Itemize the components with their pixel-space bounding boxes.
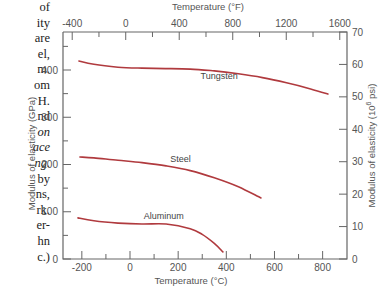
y2-tick-label: 30 — [352, 156, 364, 167]
x-tick-label: 200 — [170, 262, 187, 273]
x2-tick-label: 1600 — [329, 18, 352, 29]
x2-tick-label: -400 — [62, 18, 82, 29]
x-tick-label: -200 — [72, 262, 92, 273]
y2-tick-label: 60 — [352, 59, 364, 70]
x2-tick-label: 400 — [171, 18, 188, 29]
y-tick-label: 200 — [41, 159, 58, 170]
elastic-modulus-chart: -2000200400600800Temperature (°C)-400040… — [0, 0, 379, 286]
x2-tick-label: 0 — [123, 18, 129, 29]
y2-tick-label: 70 — [352, 27, 364, 38]
x-axis-title: Temperature (°C) — [155, 275, 228, 286]
series-label-tungsten: Tungsten — [200, 71, 237, 81]
x2-axis-title: Temperature (°F) — [172, 1, 244, 12]
y-tick-label: 400 — [41, 65, 58, 76]
y-tick-label: 0 — [52, 254, 58, 265]
y-tick-label: 300 — [41, 112, 58, 123]
y-tick-label: 100 — [41, 206, 58, 217]
curve-aluminum — [78, 218, 223, 252]
x2-tick-label: 1200 — [275, 18, 298, 29]
y2-tick-label: 40 — [352, 124, 364, 135]
y2-tick-label: 20 — [352, 189, 364, 200]
series-label-aluminum: Aluminum — [144, 211, 184, 221]
x-tick-label: 0 — [127, 262, 133, 273]
y2-axis-title: Modulus of elasticity (106 psi) — [365, 84, 377, 208]
x2-tick-label: 800 — [224, 18, 241, 29]
x-tick-label: 800 — [314, 262, 331, 273]
x-tick-label: 600 — [266, 262, 283, 273]
y2-tick-label: 50 — [352, 91, 364, 102]
y-axis-title: Modulus of elasticity (GPa) — [26, 97, 37, 211]
y2-tick-label: 0 — [352, 254, 358, 265]
series-label-steel: Steel — [170, 154, 191, 164]
x-tick-label: 400 — [218, 262, 235, 273]
y2-tick-label: 10 — [352, 221, 364, 232]
